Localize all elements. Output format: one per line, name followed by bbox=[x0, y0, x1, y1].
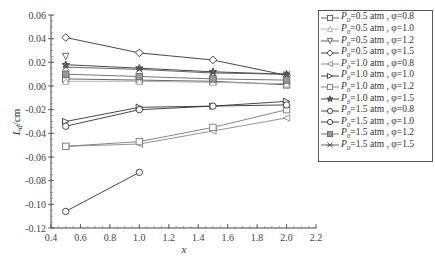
legend-item: P0=1.5 atm , φ=1.0 bbox=[321, 116, 430, 128]
legend-item: P0=1.0 atm , φ=1.2 bbox=[321, 82, 430, 94]
legend-marker-icon bbox=[321, 24, 339, 34]
x-tick-label: 1.8 bbox=[251, 232, 264, 243]
legend-item: P0=1.0 atm , φ=1.5 bbox=[321, 93, 430, 105]
y-axis-title: Ld/cm bbox=[10, 108, 24, 136]
x-tick-label: 2.2 bbox=[310, 232, 323, 243]
series-7 bbox=[63, 106, 290, 149]
x-tick-label: 2.0 bbox=[280, 232, 293, 243]
legend-marker-icon bbox=[321, 94, 339, 104]
series-layer bbox=[62, 34, 291, 215]
series-4 bbox=[62, 34, 291, 80]
legend: P0=0.5 atm , φ=0.8P0=0.5 atm , φ=1.0P0=0… bbox=[318, 10, 433, 162]
x-tick-label: 0.8 bbox=[104, 232, 117, 243]
y-tick-label: -0.08 bbox=[25, 175, 46, 186]
legend-item: P0=0.5 atm , φ=1.0 bbox=[321, 24, 430, 36]
legend-marker-icon bbox=[321, 117, 339, 127]
legend-item: P0=1.5 atm , φ=1.2 bbox=[321, 128, 430, 140]
y-tick-label: -0.04 bbox=[25, 128, 46, 139]
y-tick-label: -0.02 bbox=[25, 104, 46, 115]
series-6 bbox=[63, 98, 290, 125]
x-tick-label: 1.6 bbox=[221, 232, 234, 243]
legend-item: P0=1.5 atm , φ=0.8 bbox=[321, 105, 430, 117]
legend-marker-icon bbox=[321, 36, 339, 46]
y-tick-label: -0.10 bbox=[25, 199, 46, 210]
y-tick-label: 0.02 bbox=[29, 57, 47, 68]
x-tick-label: 1.2 bbox=[163, 232, 176, 243]
y-tick-label: 0.06 bbox=[29, 10, 47, 21]
legend-item: P0=1.0 atm , φ=0.8 bbox=[321, 58, 430, 70]
legend-item: P0=0.5 atm , φ=0.8 bbox=[321, 12, 430, 24]
legend-marker-icon bbox=[321, 106, 339, 116]
x-tick-label: 0.4 bbox=[45, 232, 58, 243]
x-tick-label: 1.0 bbox=[133, 232, 146, 243]
y-tick-label: -0.12 bbox=[25, 223, 46, 234]
x-axis-title: x bbox=[181, 243, 187, 255]
x-tick-label: 1.4 bbox=[192, 232, 205, 243]
x-tick-label: 0.6 bbox=[74, 232, 87, 243]
legend-marker-icon bbox=[321, 48, 339, 58]
series-3 bbox=[63, 53, 69, 59]
legend-item: P0=0.5 atm , φ=1.2 bbox=[321, 35, 430, 47]
y-tick-label: 0.00 bbox=[29, 81, 47, 92]
legend-marker-icon bbox=[321, 140, 339, 150]
legend-marker-icon bbox=[321, 82, 339, 92]
legend-label: P0=1.5 atm , φ=1.5 bbox=[341, 139, 414, 152]
axes: 0.060.040.020.00-0.02-0.04-0.06-0.08-0.1… bbox=[25, 10, 322, 244]
legend-marker-icon bbox=[321, 129, 339, 139]
legend-marker-icon bbox=[321, 59, 339, 69]
legend-marker-icon bbox=[321, 13, 339, 23]
legend-item: P0=1.5 atm , φ=1.5 bbox=[321, 140, 430, 152]
series-9 bbox=[63, 169, 143, 214]
legend-marker-icon bbox=[321, 71, 339, 81]
y-tick-label: 0.04 bbox=[29, 33, 47, 44]
y-tick-label: -0.06 bbox=[25, 152, 46, 163]
legend-item: P0=1.0 atm , φ=1.0 bbox=[321, 70, 430, 82]
legend-item: P0=0.5 atm , φ=1.5 bbox=[321, 47, 430, 59]
